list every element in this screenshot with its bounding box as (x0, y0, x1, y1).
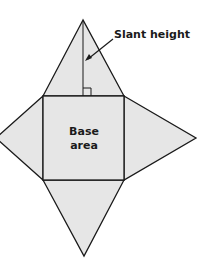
left-face-triangle (0, 96, 43, 180)
base-area-label-line2: area (70, 139, 98, 152)
pyramid-net-diagram: Slant height Base area (0, 0, 201, 264)
base-square (43, 96, 124, 180)
base-area-label-line1: Base (69, 125, 99, 138)
slant-height-label: Slant height (114, 28, 190, 41)
bottom-face-triangle (43, 180, 124, 256)
right-face-triangle (124, 96, 196, 180)
